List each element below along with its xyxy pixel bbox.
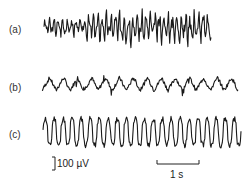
eeg-trace-a [44, 9, 211, 48]
eeg-trace-b [42, 76, 238, 96]
panel-label-c: (c) [9, 129, 21, 140]
voltage-scale-bar [52, 157, 55, 170]
time-scale-bar [157, 160, 199, 164]
panel-label-b: (b) [9, 82, 21, 93]
eeg-traces-figure [0, 0, 250, 190]
voltage-scale-label: 100 µV [57, 158, 89, 169]
panel-label-a: (a) [9, 24, 21, 35]
time-scale-label: 1 s [170, 169, 183, 180]
eeg-trace-c [43, 116, 241, 148]
